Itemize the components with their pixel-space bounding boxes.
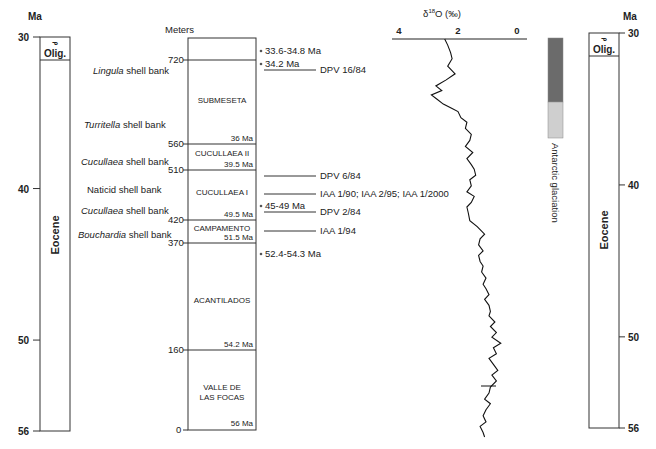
meter-tick-0: 0 xyxy=(176,424,181,435)
x-tick-labels: 420 xyxy=(396,25,519,36)
unit-age-acantilados: 54.2 Ma xyxy=(224,340,253,349)
locality-iaa-1-90: IAA 1/90; IAA 2/95; IAA 1/2000 xyxy=(320,188,449,199)
date-34-2: 34.2 Ma xyxy=(265,58,300,69)
suffix: shell bank xyxy=(124,65,170,76)
suffix: shell bank xyxy=(126,229,172,240)
title-rest: O (‰) xyxy=(435,8,461,19)
meter-ticks: 720 560 510 420 370 160 0 xyxy=(168,54,256,435)
right-ma-label: Ma xyxy=(623,11,637,22)
date-marker xyxy=(260,253,263,256)
genus: Turritella xyxy=(84,119,120,130)
date-marker xyxy=(260,63,263,66)
locality-dpv-16-84: DPV 16/84 xyxy=(320,64,366,75)
date-marker xyxy=(260,50,263,53)
formation-units: SUBMESETA 36 Ma CUCULLAEA II 39.5 Ma CUC… xyxy=(194,96,254,428)
suffix: shell bank xyxy=(123,205,169,216)
glaciation-label: Antarctic glaciation xyxy=(550,143,561,223)
unit-cucullaea-i: CUCULLAEA I xyxy=(196,188,248,197)
right-eocene-label: Eocene xyxy=(598,210,610,249)
left-tick-label-50: 50 xyxy=(18,335,30,346)
locality-dpv-6-84: DPV 6/84 xyxy=(320,170,361,181)
unit-age-cucullaea-i: 49.5 Ma xyxy=(224,210,253,219)
unit-valle-de-las-focas: VALLE DE xyxy=(203,383,241,392)
meter-tick-560: 560 xyxy=(168,138,184,149)
unit-submeseta: SUBMESETA xyxy=(198,96,247,105)
right-timescale: Ma ᓀ Olig. Eocene 30405056 xyxy=(589,11,640,434)
d18o-chart: δ18O (‰) 420 xyxy=(392,8,527,437)
meter-tick-720: 720 xyxy=(168,54,184,65)
date-45-49: 45-49 Ma xyxy=(265,200,306,211)
glaciation-bar-intense xyxy=(548,38,563,102)
date-52-4-54-3: 52.4-54.3 Ma xyxy=(265,248,322,259)
unit-valle-de-las-focas-line2: LAS FOCAS xyxy=(200,393,245,402)
shell-bank-bouchardia: Bouchardia shell bank xyxy=(78,229,172,240)
left-ma-label: Ma xyxy=(28,11,42,22)
shell-bank-cucullaea-lower: Cucullaea shell bank xyxy=(81,205,169,216)
stratigraphy-figure: Ma ᓀ Olig. Eocene 30405056 Lingula shell… xyxy=(0,0,656,449)
unit-campamento: CAMPAMENTO xyxy=(194,224,251,233)
date-33-6-34-8: 33.6-34.8 Ma xyxy=(265,45,322,56)
date-marker xyxy=(260,205,263,208)
locality-dpv-2-84: DPV 2/84 xyxy=(320,206,361,217)
right-tick-label-56: 56 xyxy=(628,423,640,434)
left-tick-label-30: 30 xyxy=(18,32,30,43)
unit-age-valle-de-las-focas: 56 Ma xyxy=(231,419,254,428)
left-ticks: 30405056 xyxy=(18,32,40,437)
left-olig-label: Olig. xyxy=(44,48,66,59)
genus: Cucullaea xyxy=(81,205,123,216)
unit-age-submeseta: 36 Ma xyxy=(231,134,254,143)
right-olig-symbol: ᓀ xyxy=(601,35,607,42)
shell-bank-naticid: Naticid shell bank xyxy=(87,184,162,195)
right-tick-label-50: 50 xyxy=(628,332,640,343)
antarctic-glaciation: Antarctic glaciation xyxy=(548,38,563,223)
shell-bank-lingula: Lingula shell bank xyxy=(93,65,169,76)
suffix: shell bank xyxy=(116,184,162,195)
x-tick-label-4: 4 xyxy=(396,25,402,36)
unit-cucullaea-ii: CUCULLAEA II xyxy=(195,149,249,158)
meter-tick-370: 370 xyxy=(168,237,184,248)
left-eocene-label: Eocene xyxy=(49,215,61,254)
locality-iaa-1-94: IAA 1/94 xyxy=(320,225,356,236)
left-tick-label-40: 40 xyxy=(18,184,30,195)
unit-age-cucullaea-ii: 39.5 Ma xyxy=(224,160,253,169)
stratigraphic-column: Meters 720 560 510 420 370 160 0 SUBMESE… xyxy=(165,24,256,435)
genus: Bouchardia xyxy=(78,229,126,240)
suffix: shell bank xyxy=(123,156,169,167)
genus: Cucullaea xyxy=(81,156,123,167)
shell-banks: Lingula shell bank Turritella shell bank… xyxy=(78,65,172,240)
meters-axis-label: Meters xyxy=(165,24,194,35)
glaciation-bar-onset xyxy=(548,102,563,138)
meter-tick-420: 420 xyxy=(168,214,184,225)
shell-bank-turritella: Turritella shell bank xyxy=(84,119,166,130)
right-ticks: 30405056 xyxy=(619,28,640,434)
genus: Naticid xyxy=(87,184,116,195)
radiometric-dates: 33.6-34.8 Ma 34.2 Ma 45-49 Ma 52.4-54.3 … xyxy=(260,45,322,259)
right-tick-label-40: 40 xyxy=(628,180,640,191)
right-tick-label-30: 30 xyxy=(628,28,640,39)
left-timescale: Ma ᓀ Olig. Eocene 30405056 xyxy=(18,11,70,437)
meter-tick-510: 510 xyxy=(168,164,184,175)
left-tick-label-56: 56 xyxy=(18,426,30,437)
d18o-series-line xyxy=(431,39,500,437)
x-tick-label-2: 2 xyxy=(455,25,460,36)
meter-tick-160: 160 xyxy=(168,344,184,355)
genus: Lingula xyxy=(93,65,124,76)
chart-title: δ18O (‰) xyxy=(423,8,461,19)
unit-acantilados: ACANTILADOS xyxy=(194,296,250,305)
unit-age-campamento: 51.5 Ma xyxy=(224,233,253,242)
suffix: shell bank xyxy=(120,119,166,130)
left-olig-symbol: ᓀ xyxy=(52,39,58,46)
shell-bank-cucullaea-upper: Cucullaea shell bank xyxy=(81,156,169,167)
x-tick-label-0: 0 xyxy=(514,25,519,36)
right-olig-label: Olig. xyxy=(593,44,615,55)
